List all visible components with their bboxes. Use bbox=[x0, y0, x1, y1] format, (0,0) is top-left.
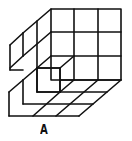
back-wall-grid bbox=[51, 9, 121, 80]
cube-figure bbox=[0, 0, 132, 141]
figure-label: A bbox=[38, 122, 49, 136]
lower-left-wall bbox=[9, 68, 37, 116]
floor-grid bbox=[9, 80, 121, 116]
inner-step-cube bbox=[37, 56, 74, 92]
left-wall-grid bbox=[10, 9, 51, 70]
